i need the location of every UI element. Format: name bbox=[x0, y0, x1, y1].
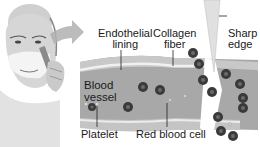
label-line: lining bbox=[98, 39, 152, 50]
label-sharp-edge: Sharp edge bbox=[228, 28, 257, 50]
label-blood-vessel: Blood vessel bbox=[84, 79, 117, 103]
arrow-icon bbox=[50, 20, 84, 44]
label-line: fiber bbox=[153, 39, 196, 50]
label-collagen-fiber: Collagen fiber bbox=[153, 28, 196, 50]
label-platelet: Platelet bbox=[81, 129, 118, 140]
label-endothelial-lining: Endothelial lining bbox=[98, 28, 152, 50]
man-shaving-illustration bbox=[0, 4, 64, 147]
label-red-blood-cell: Red blood cell bbox=[136, 129, 206, 140]
label-line: edge bbox=[228, 39, 257, 50]
diagram-canvas bbox=[0, 0, 260, 147]
label-line: Blood bbox=[84, 79, 117, 91]
label-line: vessel bbox=[84, 91, 117, 103]
